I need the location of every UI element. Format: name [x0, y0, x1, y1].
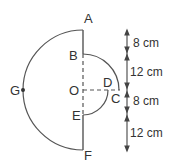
dimension-label-ef: 12 cm [130, 126, 163, 140]
arrow-up-icon [125, 30, 129, 35]
dimension-label-oe: 8 cm [133, 94, 159, 108]
label-e: E [72, 108, 81, 123]
label-a: A [84, 11, 93, 26]
label-b: B [69, 48, 78, 63]
arrow-down-icon [125, 107, 129, 112]
label-d: D [103, 75, 112, 90]
arrow-down-icon [125, 146, 129, 151]
geometry-diagram: A B O D C E F G 8 cm 12 cm 8 cm 12 cm [0, 0, 175, 166]
dimension-line [125, 30, 129, 151]
point-g-dot [21, 88, 25, 92]
arc-de [83, 90, 108, 115]
arrow-up-icon [125, 116, 129, 121]
arrow-up-icon [125, 55, 129, 60]
dimension-label-bo: 12 cm [130, 65, 163, 79]
label-f: F [84, 148, 92, 163]
label-o: O [69, 83, 79, 98]
arc-bc [83, 54, 119, 90]
arrow-down-icon [125, 83, 129, 88]
arrow-up-icon [125, 92, 129, 97]
label-c: C [111, 91, 120, 106]
dimension-label-ab: 8 cm [133, 36, 159, 50]
arrow-down-icon [125, 47, 129, 52]
label-g: G [10, 83, 20, 98]
